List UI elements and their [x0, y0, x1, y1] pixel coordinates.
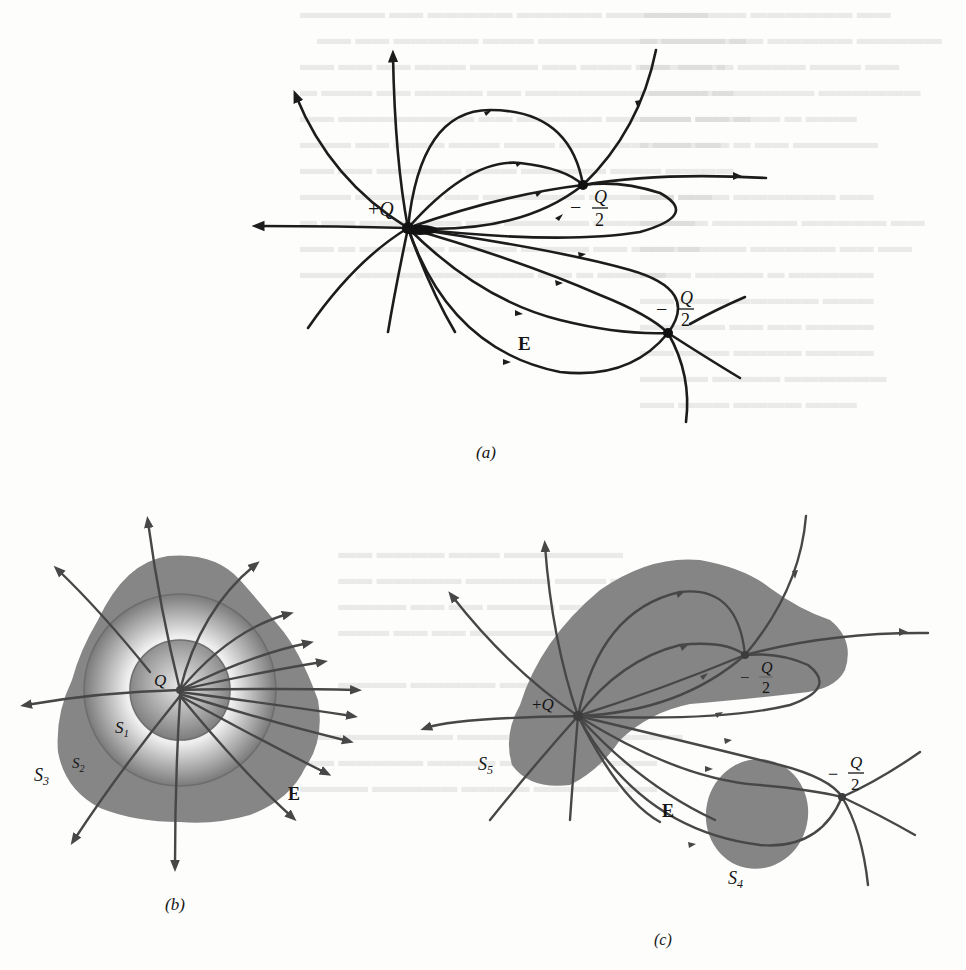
svg-text:Q: Q: [594, 187, 607, 207]
caption-b: (b): [165, 895, 185, 914]
svg-text:−: −: [740, 668, 750, 687]
svg-text:Q: Q: [680, 288, 693, 308]
arrowhead: [555, 214, 563, 221]
label-plus-q: +Q: [368, 198, 394, 220]
arrowhead: [555, 280, 563, 286]
svg-text:2: 2: [595, 210, 604, 230]
charge-positive-q: [573, 711, 583, 721]
field-line: [408, 185, 583, 228]
svg-text:2: 2: [681, 310, 690, 330]
field-line: [408, 228, 678, 333]
electric-field-figure: +Q − Q 2 − Q 2 E (a): [0, 0, 966, 970]
arrowhead: [515, 310, 523, 316]
charge-negative-half-upper: [578, 180, 588, 190]
arrowhead: [733, 172, 742, 180]
panel-a: +Q − Q 2 − Q 2 E (a): [258, 50, 766, 462]
caption-c: (c): [654, 931, 672, 949]
label-field-e: E: [662, 801, 674, 821]
svg-text:Q: Q: [850, 753, 862, 772]
label-minus-q-half-upper: − Q 2: [570, 187, 608, 230]
caption-a: (a): [476, 443, 496, 462]
label-plus-q: +Q: [532, 695, 554, 714]
charge-cluster: [402, 225, 438, 235]
panel-c: +Q − Q 2 − Q 2 S5 S4 E (c): [426, 516, 928, 949]
svg-text:−: −: [828, 764, 838, 784]
field-line: [258, 226, 408, 228]
charge-q: [176, 686, 184, 694]
field-line: [393, 56, 408, 228]
field-line: [668, 333, 687, 422]
label-field-e: E: [518, 333, 531, 354]
svg-text:2: 2: [762, 679, 770, 696]
field-line: [388, 228, 408, 332]
arrowhead: [503, 359, 511, 365]
svg-text:2: 2: [851, 775, 860, 794]
charge-negative-half-lower: [838, 793, 846, 801]
label-s3: S3: [34, 765, 49, 788]
field-line: [408, 185, 583, 229]
label-field-e: E: [288, 784, 300, 804]
field-line: [308, 228, 408, 328]
field-line: [583, 50, 656, 185]
field-line: [690, 297, 745, 324]
svg-text:−: −: [656, 298, 667, 320]
svg-text:Q: Q: [761, 659, 773, 676]
svg-text:−: −: [570, 196, 581, 218]
panel-b: Q S1 S2 S3 E (b): [26, 522, 356, 914]
label-s4: S4: [728, 868, 743, 891]
field-line: [408, 110, 583, 228]
surface-s4: [696, 750, 819, 879]
charge-negative-half-upper: [741, 651, 749, 659]
charge-negative-half-lower: [663, 328, 673, 338]
label-s5: S5: [478, 754, 493, 777]
label-q: Q: [154, 671, 166, 690]
